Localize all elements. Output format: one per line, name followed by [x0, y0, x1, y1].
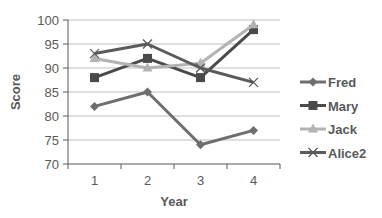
y-tick-label: 90 [45, 61, 59, 76]
x-axis-title: Year [160, 194, 187, 209]
diamond-marker-icon [249, 126, 258, 135]
series-jack [90, 19, 259, 71]
x-axis: 1234 [68, 164, 280, 188]
series-lines [90, 19, 259, 149]
legend-label: Jack [328, 122, 358, 137]
line-chart: 707580859095100 1234 FredMaryJackAlice2 … [0, 0, 382, 218]
y-tick-label: 75 [45, 133, 59, 148]
diamond-marker-icon [90, 102, 99, 111]
square-marker-icon [90, 73, 99, 82]
legend-item-fred: Fred [300, 75, 356, 90]
y-tick-label: 70 [45, 157, 59, 172]
y-tick-label: 100 [37, 13, 59, 28]
y-axis-title: Score [8, 74, 23, 110]
series-mary [90, 25, 258, 82]
y-tick-label: 85 [45, 85, 59, 100]
y-tick-label: 95 [45, 37, 59, 52]
square-legend-icon [309, 101, 318, 110]
legend-item-alice2: Alice2 [300, 146, 366, 161]
legend-label: Alice2 [328, 146, 366, 161]
x-tick-label: 3 [197, 173, 204, 188]
triangle-marker-icon [249, 19, 259, 28]
x-tick-label: 1 [91, 173, 98, 188]
y-tick-label: 80 [45, 109, 59, 124]
y-axis-ticks: 707580859095100 [37, 13, 68, 172]
square-marker-icon [196, 73, 205, 82]
series-line [95, 25, 254, 68]
x-tick-label: 2 [144, 173, 151, 188]
series-line [95, 30, 254, 78]
legend-item-mary: Mary [300, 99, 359, 114]
x-tick-label: 4 [250, 173, 257, 188]
legend-label: Mary [328, 99, 359, 114]
diamond-legend-icon [309, 78, 318, 87]
legend-item-jack: Jack [300, 122, 358, 137]
square-marker-icon [143, 54, 152, 63]
series-line [95, 92, 254, 145]
legend: FredMaryJackAlice2 [300, 75, 366, 161]
chart-canvas: 707580859095100 1234 FredMaryJackAlice2 … [0, 0, 382, 218]
legend-label: Fred [328, 75, 356, 90]
